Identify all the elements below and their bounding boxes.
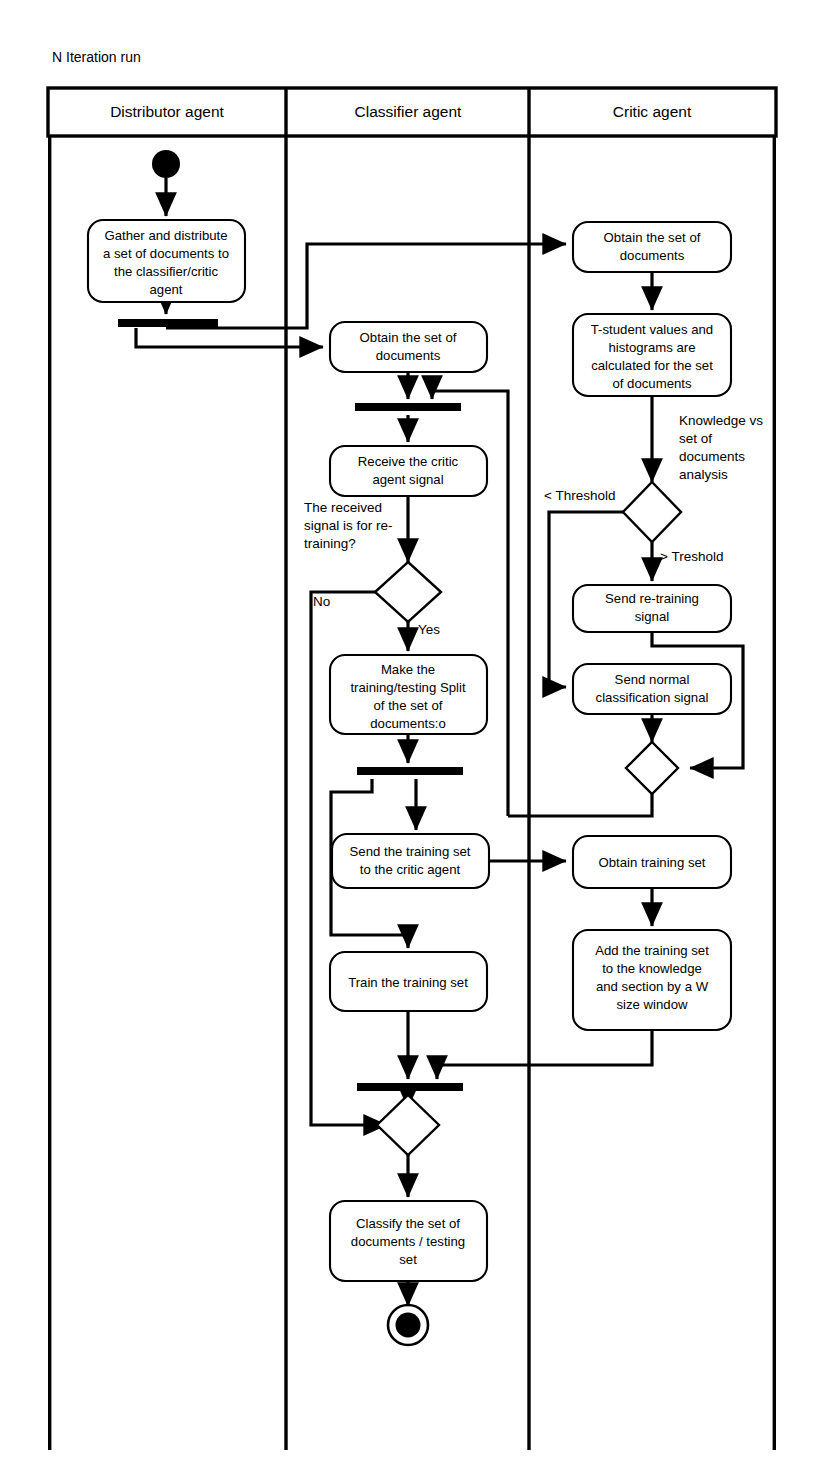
- fork-bar-distributor: [118, 319, 218, 327]
- action-gather-and-distribute[interactable]: Gather and distribute a set of documents…: [88, 220, 245, 302]
- action-line-1: Receive the critic: [358, 454, 459, 469]
- initial-node: [152, 150, 180, 178]
- action-obtain-docs-critic[interactable]: Obtain the set of documents: [573, 222, 731, 272]
- action-line-2: documents: [376, 348, 441, 363]
- action-line-1: Send normal: [615, 672, 690, 687]
- diagram-caption: N Iteration run: [52, 49, 141, 65]
- decision-threshold[interactable]: [623, 482, 681, 542]
- activity-diagram-canvas: N Iteration run Distributor agent Classi…: [0, 0, 814, 1457]
- action-train-the-training-set[interactable]: Train the training set: [330, 952, 487, 1011]
- action-line-3: calculated for the set: [591, 358, 713, 373]
- action-line-4: documents:o: [370, 716, 446, 731]
- action-line-2: agent signal: [372, 472, 443, 487]
- action-line-3: the classifier/critic: [114, 264, 218, 279]
- action-box[interactable]: [332, 834, 489, 888]
- annotation-knowledge-line-4: analysis: [679, 467, 728, 482]
- action-line-1: Make the: [381, 662, 435, 677]
- action-line-4: size window: [616, 997, 688, 1012]
- action-line-3: set: [399, 1252, 417, 1267]
- action-send-normal-classification-signal[interactable]: Send normal classification signal: [573, 664, 731, 714]
- action-add-training-set-to-knowledge[interactable]: Add the training set to the knowledge an…: [573, 930, 731, 1030]
- annotation-knowledge-line-3: documents: [679, 449, 745, 464]
- action-line-2: histograms are: [608, 340, 695, 355]
- action-line-1: Obtain the set of: [360, 330, 457, 345]
- edge-fork-to-classifier-obtain: [136, 328, 323, 347]
- action-line-1: Send the training set: [350, 844, 471, 859]
- action-line-1: Obtain training set: [598, 855, 705, 870]
- action-line-1: Train the training set: [348, 975, 468, 990]
- merge-node-classifier[interactable]: [377, 1095, 439, 1155]
- action-line-1: Obtain the set of: [604, 230, 701, 245]
- join-bar-classifier-1: [355, 403, 461, 411]
- action-obtain-docs-classifier[interactable]: Obtain the set of documents: [330, 322, 487, 372]
- action-line-1: Add the training set: [595, 943, 709, 958]
- guard-yes: Yes: [418, 622, 440, 637]
- action-line-4: of documents: [612, 376, 692, 391]
- final-node-core: [396, 1313, 421, 1338]
- join-bar-classifier-2: [357, 1083, 463, 1091]
- action-line-3: of the set of: [374, 698, 443, 713]
- action-line-2: a set of documents to: [103, 246, 229, 261]
- annotation-knowledge-line-2: set of: [679, 431, 712, 446]
- action-line-2: signal: [635, 609, 670, 624]
- action-line-2: training/testing Split: [350, 680, 465, 695]
- action-send-training-set[interactable]: Send the training set to the critic agen…: [332, 834, 489, 888]
- guard-above-threshold: > Treshold: [660, 549, 723, 564]
- guard-no: No: [313, 594, 330, 609]
- action-classify-documents[interactable]: Classify the set of documents / testing …: [330, 1201, 487, 1281]
- uml-activity-diagram: N Iteration run Distributor agent Classi…: [0, 0, 814, 1457]
- merge-node-critic[interactable]: [626, 742, 678, 794]
- action-receive-critic-signal[interactable]: Receive the critic agent signal: [330, 446, 487, 496]
- lane-title-distributor: Distributor agent: [110, 103, 224, 120]
- action-obtain-training-set[interactable]: Obtain training set: [573, 836, 731, 888]
- action-line-2: classification signal: [596, 690, 709, 705]
- action-line-4: agent: [149, 282, 182, 297]
- action-line-2: to the knowledge: [602, 961, 702, 976]
- action-line-1: Classify the set of: [356, 1216, 460, 1231]
- action-line-2: documents / testing: [351, 1234, 465, 1249]
- final-node: [388, 1305, 428, 1345]
- annotation-knowledge-line-1: Knowledge vs: [679, 413, 763, 428]
- guard-below-threshold: < Threshold: [544, 488, 615, 503]
- fork-bar-classifier: [357, 767, 463, 775]
- lane-title-classifier: Classifier agent: [355, 103, 463, 120]
- action-line-1: T-student values and: [591, 322, 713, 337]
- action-line-2: to the critic agent: [360, 862, 461, 877]
- action-line-1: Send re-training: [605, 591, 699, 606]
- decision-retraining[interactable]: [375, 562, 441, 622]
- guard-retraining-question-line-3: training?: [304, 536, 356, 551]
- action-send-retraining-signal[interactable]: Send re-training signal: [573, 585, 731, 632]
- action-line-3: and section by a W: [596, 979, 709, 994]
- action-line-2: documents: [620, 248, 685, 263]
- action-tstudent-histograms[interactable]: T-student values and histograms are calc…: [573, 314, 731, 396]
- guard-retraining-question-line-1: The received: [304, 500, 382, 515]
- guard-retraining-question-line-2: signal is for re-: [304, 518, 393, 533]
- lane-title-critic: Critic agent: [613, 103, 692, 120]
- action-line-1: Gather and distribute: [104, 228, 227, 243]
- action-make-split[interactable]: Make the training/testing Split of the s…: [330, 655, 487, 734]
- edge-addtraining-to-join2: [437, 1030, 652, 1079]
